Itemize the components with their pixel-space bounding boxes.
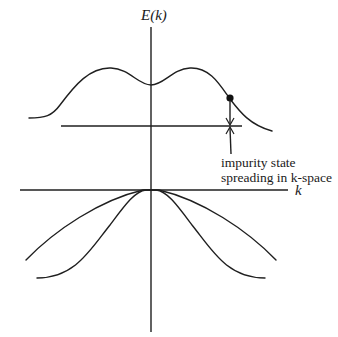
annotation-line-2: spreading in k-space: [221, 170, 332, 185]
annotation-pointer-shaft: [230, 128, 231, 154]
energy-axis-label: E(k): [140, 7, 167, 24]
annotation-line-1: impurity state: [221, 155, 296, 170]
band-structure-diagram: E(k) k impurity state spreading in k-spa…: [0, 0, 338, 337]
